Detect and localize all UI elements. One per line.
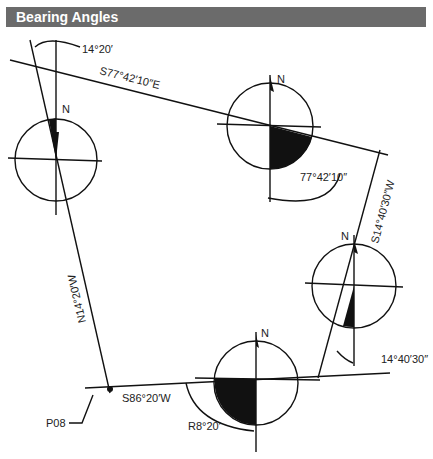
north-label-3: N	[341, 230, 349, 242]
angle-label-r8: R8°20′	[188, 420, 221, 432]
angle-label-14-40: 14°40′30″	[381, 353, 428, 365]
line-n14	[30, 40, 110, 393]
north-label-4: N	[261, 327, 269, 339]
north-label-1: N	[62, 103, 70, 115]
angle-label-77: 77°42′10″	[300, 171, 347, 183]
line-label-s77: S77°42′10″E	[99, 64, 162, 91]
angle-label-14-20: 14°20′	[82, 43, 113, 55]
line-s14	[318, 150, 380, 378]
line-label-s86: S86°20′W	[122, 392, 171, 404]
bearing-diagram: 14°20′ S77°42′10″E 77°42′10″ S14°40′30″W…	[0, 0, 433, 459]
north-label-2: N	[277, 73, 285, 85]
point-label-p08: P08	[46, 417, 66, 429]
line-label-s14: S14°40′30″W	[368, 178, 397, 244]
